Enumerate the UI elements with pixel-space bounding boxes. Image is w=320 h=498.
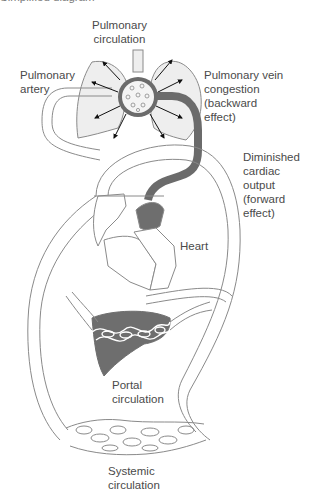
label-systemic-circulation: Systemic circulation <box>108 464 160 492</box>
heart <box>94 194 177 290</box>
label-diminished-cardiac-output: Diminished cardiac output (forward effec… <box>243 150 300 220</box>
systemic-capillary-bed <box>66 419 206 454</box>
label-heart: Heart <box>180 239 208 253</box>
label-portal-circulation: Portal circulation <box>112 378 164 406</box>
label-pulmonary-circulation: Pulmonary circulation <box>92 18 147 46</box>
label-pulmonary-artery: Pulmonary artery <box>20 68 75 96</box>
label-pulmonary-vein-congestion: Pulmonary vein congestion (backward effe… <box>204 68 283 124</box>
alveolar-sac <box>118 77 158 117</box>
